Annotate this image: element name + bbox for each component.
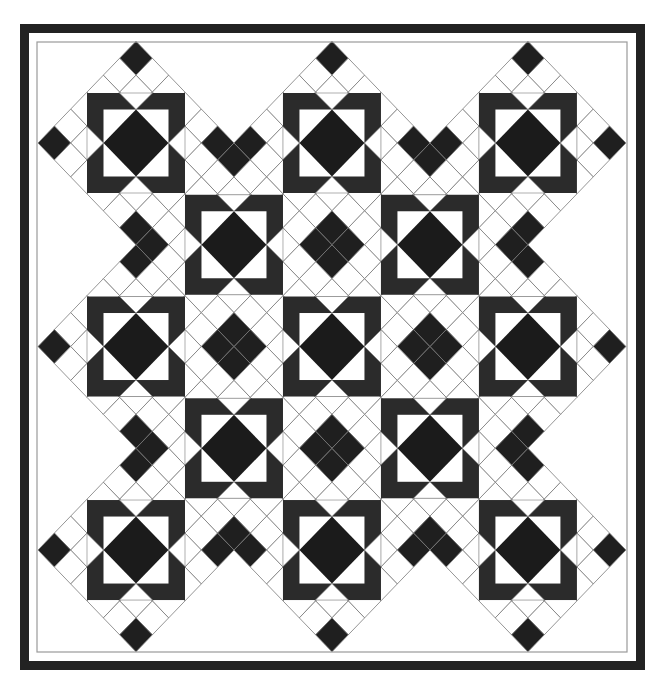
large-block <box>283 93 381 193</box>
large-block <box>283 297 381 397</box>
small-block <box>185 195 283 295</box>
large-block <box>87 297 185 397</box>
small-block <box>381 195 479 295</box>
quilt-canvas <box>0 0 661 685</box>
large-block <box>479 500 577 600</box>
large-block <box>87 500 185 600</box>
large-block <box>87 93 185 193</box>
large-block <box>479 297 577 397</box>
large-block <box>479 93 577 193</box>
small-block <box>185 398 283 498</box>
small-block <box>381 398 479 498</box>
star-blocks <box>87 93 577 600</box>
large-block <box>283 500 381 600</box>
